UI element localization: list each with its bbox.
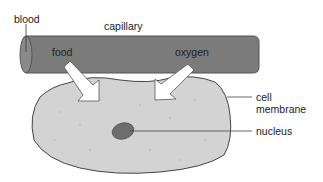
label-cell-membrane-2: membrane — [256, 103, 306, 115]
label-oxygen: oxygen — [175, 46, 209, 58]
label-food: food — [52, 46, 72, 58]
label-nucleus: nucleus — [256, 125, 292, 137]
label-blood: blood — [14, 13, 40, 25]
label-capillary: capillary — [104, 20, 143, 32]
cell-diagram — [0, 0, 323, 182]
label-cell-membrane-1: cell — [256, 91, 272, 103]
